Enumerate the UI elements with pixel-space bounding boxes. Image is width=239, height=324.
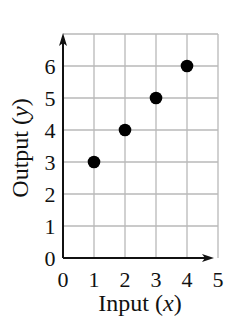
tick-labels: 0123450123456 — [45, 54, 224, 292]
x-tick-label: 0 — [58, 267, 69, 292]
x-tick-label: 2 — [120, 267, 131, 292]
y-tick-label: 4 — [45, 118, 56, 143]
grid — [63, 34, 218, 258]
y-tick-label: 6 — [45, 54, 56, 79]
y-tick-label: 0 — [45, 246, 56, 271]
y-axis-label: Output (y) — [7, 98, 33, 197]
data-point — [88, 156, 101, 169]
y-tick-label: 1 — [45, 214, 56, 239]
data-point — [119, 124, 132, 137]
x-tick-label: 1 — [89, 267, 100, 292]
y-tick-label: 3 — [45, 150, 56, 175]
x-axis-label: Input (x) — [98, 290, 181, 316]
data-points — [88, 60, 194, 169]
y-tick-label: 5 — [45, 86, 56, 111]
x-tick-label: 5 — [213, 267, 224, 292]
scatter-chart: 0123450123456 Input (x) Output (y) — [0, 0, 239, 324]
x-tick-label: 3 — [151, 267, 162, 292]
data-point — [181, 60, 194, 73]
y-tick-label: 2 — [45, 182, 56, 207]
x-tick-label: 4 — [182, 267, 193, 292]
data-point — [150, 92, 163, 105]
